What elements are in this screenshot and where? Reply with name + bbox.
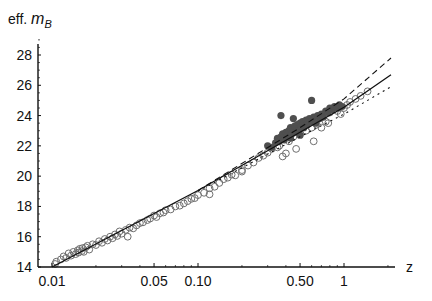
data-point — [277, 112, 284, 119]
data-point — [293, 145, 300, 152]
data-point — [216, 180, 223, 187]
hubble-diagram-chart: 1416182022242628 0.010.050.100.501 eff. … — [0, 0, 432, 301]
y-tick-label: 18 — [16, 198, 32, 214]
x-tick-label: 0.05 — [140, 273, 167, 289]
y-axis-title: eff. mB — [8, 10, 52, 30]
y-tick-label: 14 — [16, 259, 32, 275]
y-tick-label: 20 — [16, 168, 32, 184]
y-tick-label: 24 — [16, 108, 32, 124]
data-point — [176, 202, 183, 209]
data-point — [290, 115, 297, 122]
data-point — [308, 97, 315, 104]
x-axis-title: z — [406, 259, 413, 275]
data-point — [124, 233, 131, 240]
y-tick-label: 22 — [16, 138, 32, 154]
x-tick-label: 0.01 — [38, 273, 65, 289]
data-point — [310, 138, 317, 145]
y-tick-label: 26 — [16, 77, 32, 93]
x-tick-label: 1 — [340, 273, 348, 289]
dotted-curve — [198, 87, 391, 192]
y-tick-label: 16 — [16, 229, 32, 245]
y-tick-label: 28 — [16, 47, 32, 63]
x-tick-label: 0.10 — [184, 273, 211, 289]
x-tick-label: 0.50 — [286, 273, 313, 289]
